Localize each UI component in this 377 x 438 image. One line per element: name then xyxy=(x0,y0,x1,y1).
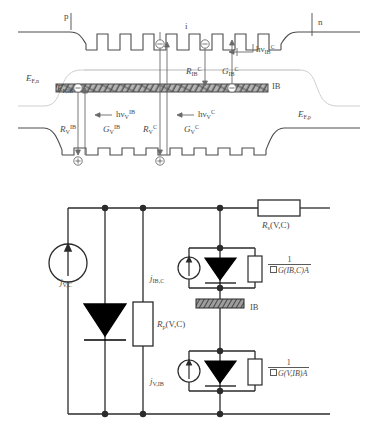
diode-main xyxy=(84,304,126,340)
label-photon-V-C: hνVC xyxy=(198,109,215,120)
diode-ib-c xyxy=(205,258,236,283)
box-glyph-v-ib xyxy=(270,369,277,376)
label-R-V-IB: RVIB xyxy=(60,124,76,135)
label-ib-band: IB xyxy=(272,82,281,91)
equivalent-circuit-svg xyxy=(0,196,377,438)
label-current-source-jvc: jV,C xyxy=(60,278,72,288)
ib-block xyxy=(196,299,244,308)
label-fermi-p: EF,p xyxy=(298,110,311,120)
conductance-fraction-ib-c: 1 G(IB,C)A xyxy=(268,255,311,275)
label-shunt-resistor: Rp(V,C) xyxy=(157,320,185,330)
arrowhead-photon-V-C xyxy=(177,113,182,117)
conductance-resistor-ib-c xyxy=(248,256,262,282)
arrowhead-photon-V-IB xyxy=(95,113,100,117)
arrowhead-R-V-IB xyxy=(76,150,81,155)
label-G-V-IB: GVIB xyxy=(103,124,120,135)
conduction-band-left xyxy=(18,32,86,50)
label-ib-block: IB xyxy=(250,303,259,312)
label-G-V-C: GVC xyxy=(184,124,199,135)
label-R-V-C: RVC xyxy=(143,124,157,135)
diode-v-ib xyxy=(205,361,236,386)
conduction-band-right xyxy=(281,32,360,50)
label-G-IB-C: GIBC xyxy=(222,66,239,77)
box-glyph-ib-c xyxy=(270,266,277,273)
valence-band-wells xyxy=(62,148,266,155)
label-photon-IB-C: hνIBC xyxy=(256,44,275,55)
label-series-resistor: Rs(V,C) xyxy=(262,221,289,231)
label-current-source-jibc: jIB,C xyxy=(150,274,164,284)
valence-band-left xyxy=(18,128,62,155)
label-region-n: n xyxy=(318,18,323,27)
label-region-p: p xyxy=(64,12,69,21)
shunt-resistor-body xyxy=(133,302,153,346)
label-photon-V-IB: hνVIB xyxy=(116,109,135,120)
arrowhead-G-IB-C xyxy=(230,40,235,45)
arrowhead-G-V-C xyxy=(165,42,170,47)
valence-band-right xyxy=(266,128,360,155)
band-diagram-svg xyxy=(0,0,377,200)
conduction-band-wells xyxy=(86,34,281,50)
label-current-source-jvib: jV,IB xyxy=(150,377,164,387)
label-fermi-n: EF,n xyxy=(26,74,39,84)
label-fermi-ib: EF,IB xyxy=(57,84,73,94)
label-region-i: i xyxy=(185,22,188,31)
series-resistor-body xyxy=(258,200,300,216)
conductance-resistor-v-ib xyxy=(248,359,262,385)
figure-root: p i n EF,n EF,IB EF,p IB RIBC GIBC RVIB … xyxy=(0,0,377,438)
label-R-IB-C: RIBC xyxy=(186,66,202,77)
carrier-group xyxy=(74,40,236,165)
conductance-fraction-v-ib: 1 G(V,IB)A xyxy=(268,358,309,378)
